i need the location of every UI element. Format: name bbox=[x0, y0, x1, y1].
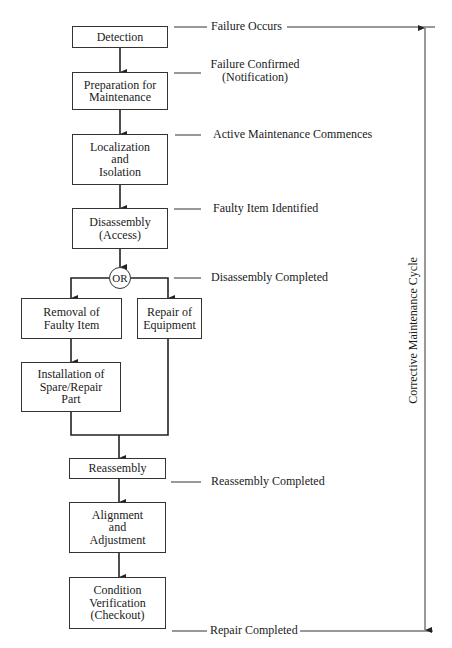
step-label: Installation of Spare/Repair Part bbox=[38, 368, 105, 406]
step-label: Condition Verification (Checkout) bbox=[89, 584, 146, 622]
step-verification: Condition Verification (Checkout) bbox=[69, 577, 166, 629]
step-label: Reassembly bbox=[89, 462, 147, 475]
milestone-failure-confirmed: Failure Confirmed (Notification) bbox=[205, 58, 305, 83]
step-removal: Removal of Faulty Item bbox=[21, 298, 122, 339]
step-reassembly: Reassembly bbox=[69, 458, 166, 479]
step-localization: Localization and Isolation bbox=[72, 134, 168, 185]
milestone-active-maintenance: Active Maintenance Commences bbox=[213, 128, 372, 141]
step-disassembly: Disassembly (Access) bbox=[72, 208, 168, 249]
step-label: Localization and Isolation bbox=[90, 141, 150, 179]
step-label: Removal of Faulty Item bbox=[43, 306, 99, 331]
cycle-label: Corrective Maintenance Cycle bbox=[406, 256, 421, 406]
step-repair: Repair of Equipment bbox=[137, 298, 202, 339]
step-alignment: Alignment and Adjustment bbox=[69, 502, 166, 553]
step-installation: Installation of Spare/Repair Part bbox=[21, 362, 121, 412]
milestone-reassembly-completed: Reassembly Completed bbox=[211, 475, 325, 488]
milestone-repair-completed: Repair Completed bbox=[210, 624, 298, 637]
step-detection: Detection bbox=[72, 26, 168, 48]
milestone-failure-occurs: Failure Occurs bbox=[211, 20, 282, 33]
step-label: Preparation for Maintenance bbox=[84, 79, 156, 104]
milestone-faulty-item-identified: Faulty Item Identified bbox=[213, 202, 318, 215]
step-preparation: Preparation for Maintenance bbox=[72, 72, 168, 110]
or-label: OR bbox=[112, 272, 127, 284]
milestone-disassembly-completed: Disassembly Completed bbox=[211, 271, 328, 284]
step-label: Detection bbox=[97, 31, 144, 44]
step-label: Repair of Equipment bbox=[143, 306, 196, 331]
step-label: Alignment and Adjustment bbox=[90, 509, 146, 547]
step-label: Disassembly (Access) bbox=[89, 216, 150, 241]
or-decision-node: OR bbox=[109, 267, 131, 289]
